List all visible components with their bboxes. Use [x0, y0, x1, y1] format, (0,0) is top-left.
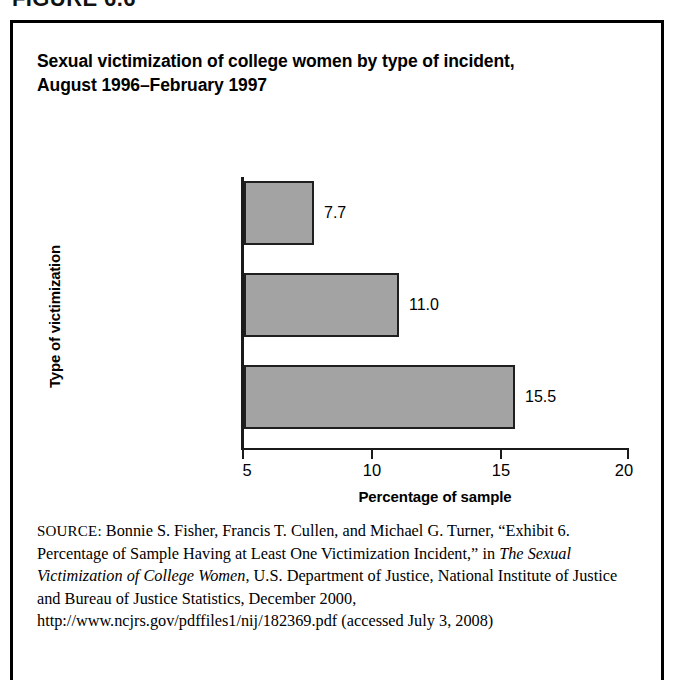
x-tick-15	[500, 448, 502, 459]
x-tick-label-5: 5	[242, 461, 251, 480]
x-tick-label-10: 10	[363, 461, 381, 480]
x-tick-label-20: 20	[615, 461, 633, 480]
source-note: SOURCE: Bonnie S. Fisher, Francis T. Cul…	[37, 520, 637, 633]
figure-title: Sexual victimization of college women by…	[37, 49, 612, 97]
bar-physical-force	[244, 181, 314, 245]
x-axis-line	[241, 448, 629, 450]
y-axis-title: Type of victimization	[46, 207, 63, 427]
figure-number: FIGURE 6.6	[12, 0, 136, 12]
figure-panel: Sexual victimization of college women by…	[10, 20, 664, 680]
bar-value-label: 15.5	[525, 388, 556, 406]
source-label: SOURCE:	[37, 523, 102, 539]
x-tick-label-15: 15	[492, 461, 510, 480]
bar-nonphysical-force	[244, 273, 399, 337]
figure-title-line-2: August 1996–February 1997	[37, 73, 612, 97]
x-tick-10	[371, 448, 373, 459]
source-text-part-1: Bonnie S. Fisher, Francis T. Cullen, and…	[37, 521, 570, 563]
x-tick-5	[242, 448, 244, 459]
figure-title-line-1: Sexual victimization of college women by…	[37, 49, 612, 73]
bar-value-label: 11.0	[409, 296, 439, 314]
bar-value-label: 7.7	[324, 204, 346, 222]
x-tick-20	[627, 448, 629, 459]
x-axis-title: Percentage of sample	[241, 488, 629, 505]
bar-chart: Type of victimization Victimization invo…	[13, 143, 667, 513]
bar-any-victimization	[244, 365, 515, 429]
